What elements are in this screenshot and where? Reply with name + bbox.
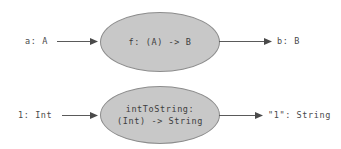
function-node-generic-line-0: f: (A) -> B — [129, 36, 192, 48]
input-arrow-int-to-string — [62, 111, 100, 120]
output-arrow-int-to-string — [219, 111, 265, 120]
function-application-diagram: a: A f: (A) -> B b: B 1: Int — [0, 0, 341, 149]
output-label-generic: b: B — [277, 37, 300, 46]
function-node-int-to-string: intToString: (Int) -> String — [100, 86, 220, 144]
diagram-row-generic-function: a: A f: (A) -> B b: B — [0, 5, 341, 77]
output-arrow-generic — [219, 37, 274, 46]
input-arrow-generic — [57, 37, 100, 46]
input-label-int-to-string: 1: Int — [18, 111, 52, 120]
function-node-int-to-string-line-0: intToString: — [126, 103, 195, 115]
output-label-int-to-string: "1": String — [268, 111, 331, 120]
function-node-int-to-string-line-1: (Int) -> String — [117, 115, 203, 127]
diagram-row-int-to-string: 1: Int intToString: (Int) -> String "1":… — [0, 80, 341, 148]
function-node-generic: f: (A) -> B — [100, 12, 220, 72]
input-label-generic: a: A — [25, 37, 48, 46]
